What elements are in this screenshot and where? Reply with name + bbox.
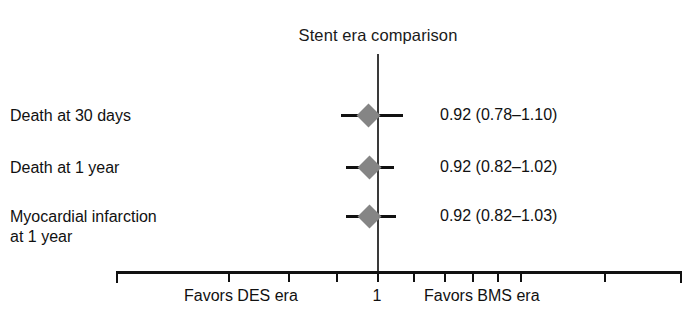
x-axis-tick [228, 271, 230, 282]
chart-title: Stent era comparison [262, 26, 494, 45]
x-axis-label-right: Favors BMS era [424, 287, 540, 305]
x-axis-tick [288, 271, 290, 282]
row-value-myocardial-infarction-1-year: 0.92 (0.82–1.03) [440, 207, 640, 225]
row-value-death-1-year: 0.92 (0.82–1.02) [440, 158, 640, 176]
x-axis-tick [604, 271, 606, 282]
x-axis-tick [520, 271, 522, 282]
row-label-death-30-days: Death at 30 days [10, 106, 131, 126]
x-axis-label-center: 1 [365, 287, 389, 305]
x-axis-tick [336, 271, 338, 282]
row-label-myocardial-infarction-1-year: Myocardial infarction at 1 year [10, 207, 157, 247]
x-axis-tick [444, 271, 446, 282]
x-axis-line [116, 271, 682, 274]
x-axis-left-cap [116, 271, 118, 283]
x-axis-right-cap [680, 271, 682, 283]
x-axis-tick [472, 271, 474, 282]
x-axis-label-left: Favors DES era [184, 287, 298, 305]
row-label-death-1-year: Death at 1 year [10, 158, 119, 178]
x-axis-tick-reference [377, 271, 379, 282]
x-axis-tick [497, 271, 499, 282]
forest-plot: Stent era comparison Death at 30 days 0.… [0, 0, 692, 313]
row-value-death-30-days: 0.92 (0.78–1.10) [440, 106, 640, 124]
x-axis-tick [413, 271, 415, 282]
